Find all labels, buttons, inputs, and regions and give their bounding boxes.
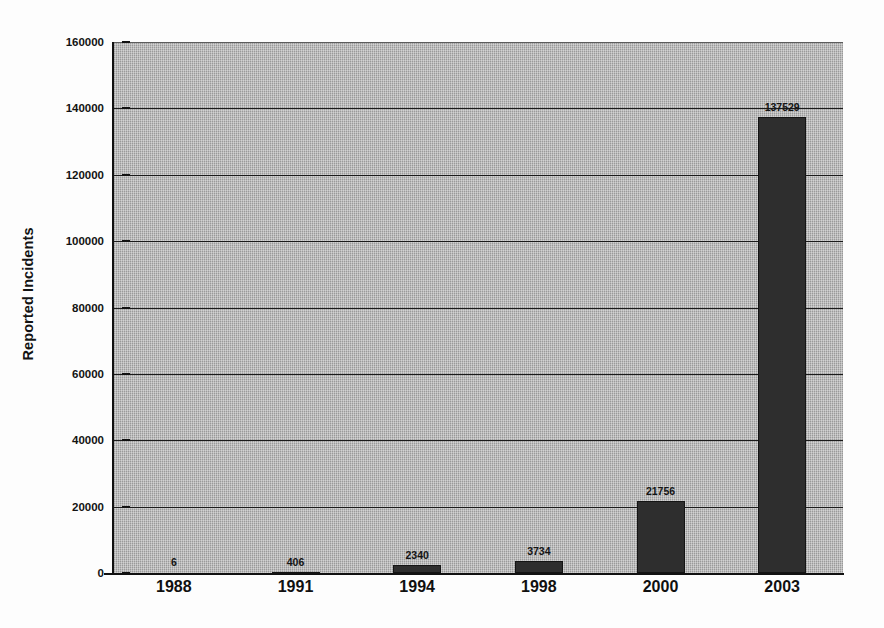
y-tick-mark bbox=[122, 174, 130, 176]
gridline bbox=[113, 175, 843, 176]
x-tick-label: 1998 bbox=[479, 578, 599, 596]
y-axis-ticks: 0200004000060000800001000001200001400001… bbox=[18, 0, 104, 628]
bar-value-label: 21756 bbox=[601, 485, 721, 497]
y-tick-label: 100000 bbox=[24, 235, 104, 247]
y-tick-mark bbox=[122, 307, 130, 309]
bar bbox=[637, 501, 685, 573]
gridline bbox=[113, 241, 843, 242]
y-tick-label: 20000 bbox=[24, 501, 104, 513]
y-tick-mark bbox=[122, 41, 130, 43]
bar-value-label: 137529 bbox=[722, 101, 842, 113]
x-tick-label: 1994 bbox=[357, 578, 477, 596]
y-tick-mark bbox=[122, 439, 130, 441]
y-tick-label: 40000 bbox=[24, 434, 104, 446]
y-tick-mark bbox=[122, 572, 130, 574]
bar bbox=[515, 561, 563, 573]
y-tick-mark bbox=[122, 506, 130, 508]
y-tick-label: 140000 bbox=[24, 102, 104, 114]
y-tick-label: 160000 bbox=[24, 36, 104, 48]
y-tick-label: 60000 bbox=[24, 368, 104, 380]
x-tick-label: 2000 bbox=[601, 578, 721, 596]
plot-area bbox=[113, 42, 843, 573]
y-tick-mark bbox=[122, 373, 130, 375]
bar-value-label: 3734 bbox=[479, 545, 599, 557]
y-axis-line bbox=[112, 42, 114, 574]
y-tick-label: 120000 bbox=[24, 169, 104, 181]
gridline bbox=[113, 507, 843, 508]
bar-chart: Reported Incidents 020000400006000080000… bbox=[0, 0, 884, 628]
gridline bbox=[113, 308, 843, 309]
x-tick-label: 1988 bbox=[114, 578, 234, 596]
bar-value-label: 2340 bbox=[357, 549, 477, 561]
y-tick-mark bbox=[122, 107, 130, 109]
bar-value-label: 406 bbox=[236, 556, 356, 568]
bar-value-label: 6 bbox=[114, 556, 234, 568]
bar bbox=[272, 572, 320, 574]
y-tick-label: 80000 bbox=[24, 302, 104, 314]
gridline bbox=[113, 374, 843, 375]
x-axis-line bbox=[104, 573, 844, 575]
x-tick-label: 2003 bbox=[722, 578, 842, 596]
bar bbox=[393, 565, 441, 573]
x-tick-label: 1991 bbox=[236, 578, 356, 596]
y-tick-label: 0 bbox=[24, 567, 104, 579]
bar bbox=[758, 117, 806, 573]
gridline bbox=[113, 42, 843, 43]
gridline bbox=[113, 440, 843, 441]
y-tick-mark bbox=[122, 240, 130, 242]
